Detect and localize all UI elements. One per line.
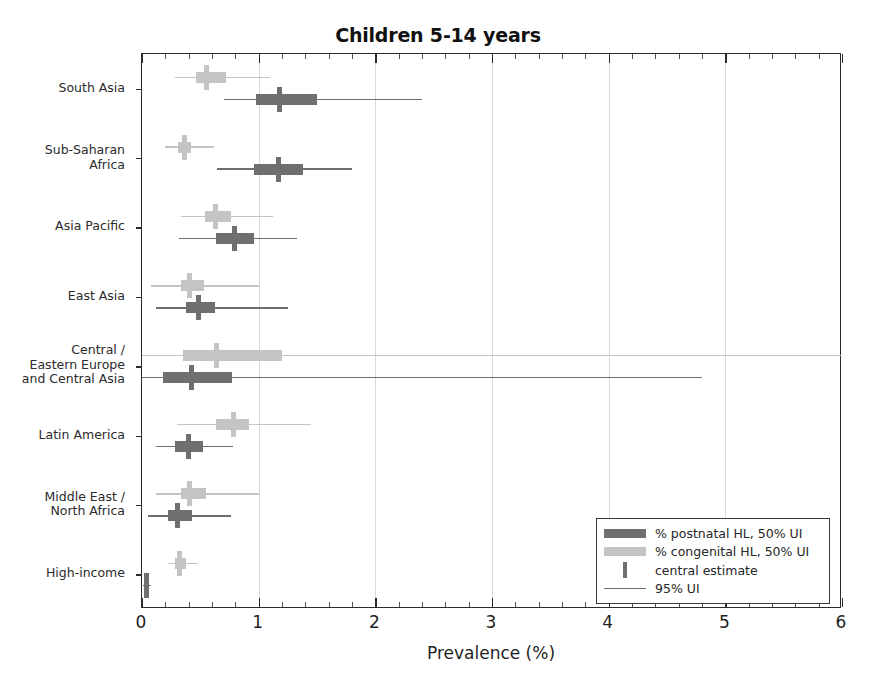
y-axis-label: High-income [46, 566, 125, 581]
x-tick-top-major [375, 54, 376, 63]
y-tick [136, 227, 142, 228]
x-tick-minor [305, 602, 306, 607]
legend-line-icon [604, 588, 646, 589]
y-axis-label: South Asia [59, 80, 126, 95]
ui50-box [256, 94, 317, 105]
legend-item: central estimate [604, 561, 822, 580]
y-tick [136, 436, 142, 437]
x-tick-minor [469, 602, 470, 607]
ui50-box [196, 72, 226, 83]
x-tick-top-major [609, 54, 610, 63]
ui95-line [224, 99, 422, 100]
x-tick-top-minor [422, 54, 423, 59]
legend-swatch-icon [604, 561, 646, 579]
x-tick-top-minor [702, 54, 703, 59]
x-tick-top-minor [632, 54, 633, 59]
y-tick [136, 297, 142, 298]
y-axis-label: Asia Pacific [55, 219, 125, 234]
legend-label: % congenital HL, 50% UI [655, 544, 809, 559]
x-tick-top-minor [795, 54, 796, 59]
central-estimate-tick [204, 65, 209, 90]
central-estimate-tick [175, 503, 180, 528]
x-tick-label: 5 [719, 612, 730, 632]
x-tick-minor [515, 602, 516, 607]
x-tick-label: 1 [252, 612, 263, 632]
x-tick-minor [399, 602, 400, 607]
x-tick-top-minor [212, 54, 213, 59]
ui50-box [186, 302, 215, 313]
x-tick-label: 2 [369, 612, 380, 632]
central-estimate-tick [182, 135, 187, 160]
x-tick-top-major [259, 54, 260, 63]
legend-bar-icon [604, 529, 646, 538]
x-tick-top-minor [562, 54, 563, 59]
chart-title: Children 5-14 years [0, 24, 876, 46]
chart-figure: Children 5-14 years South AsiaSub-Sahara… [0, 0, 876, 691]
y-axis-label: East Asia [68, 289, 125, 304]
chart-legend: % postnatal HL, 50% UI% congenital HL, 5… [596, 518, 830, 604]
gridline [259, 54, 260, 607]
x-tick-major [842, 598, 843, 607]
central-estimate-tick [277, 87, 282, 112]
x-tick-top-minor [329, 54, 330, 59]
gridline [375, 54, 376, 607]
x-tick-major [492, 598, 493, 607]
x-tick-top-major [725, 54, 726, 63]
x-tick-top-minor [399, 54, 400, 59]
x-tick-major [259, 598, 260, 607]
x-tick-top-minor [165, 54, 166, 59]
legend-item: % congenital HL, 50% UI [604, 543, 822, 562]
x-tick-top-minor [655, 54, 656, 59]
y-axis-label: Central / Eastern Europe and Central Asi… [22, 343, 125, 387]
ui50-box [183, 350, 282, 361]
y-axis-label: Latin America [39, 427, 125, 442]
legend-label: % postnatal HL, 50% UI [655, 526, 802, 541]
legend-tick-icon [623, 562, 627, 578]
legend-item: % postnatal HL, 50% UI [604, 524, 822, 543]
central-estimate-tick [276, 157, 281, 182]
central-estimate-tick [232, 226, 237, 251]
ui95-line [156, 307, 288, 308]
ui50-box [181, 488, 207, 499]
x-tick-major [142, 598, 143, 607]
x-tick-minor [445, 602, 446, 607]
x-tick-top-minor [305, 54, 306, 59]
x-axis-title: Prevalence (%) [141, 643, 841, 663]
ui95-line [156, 493, 259, 494]
ui95-line [151, 285, 258, 286]
x-tick-top-minor [539, 54, 540, 59]
y-axis-label: Middle East / North Africa [45, 489, 125, 518]
x-tick-top-major [142, 54, 143, 63]
x-tick-top-minor [352, 54, 353, 59]
x-tick-label: 4 [602, 612, 613, 632]
x-tick-minor [562, 602, 563, 607]
legend-swatch-icon [604, 543, 646, 561]
x-tick-top-minor [819, 54, 820, 59]
x-tick-top-minor [282, 54, 283, 59]
legend-item: 95% UI [604, 580, 822, 599]
central-estimate-tick [187, 273, 192, 298]
x-tick-top-major [842, 54, 843, 63]
x-tick-top-major [492, 54, 493, 63]
central-estimate-tick [196, 295, 201, 320]
x-tick-top-minor [469, 54, 470, 59]
legend-swatch-icon [604, 524, 646, 542]
y-tick [136, 158, 142, 159]
x-tick-top-minor [772, 54, 773, 59]
central-estimate-tick [231, 412, 236, 437]
x-tick-top-minor [749, 54, 750, 59]
central-estimate-tick [144, 573, 149, 598]
x-tick-label: 3 [486, 612, 497, 632]
legend-swatch-icon [604, 580, 646, 598]
x-tick-minor [539, 602, 540, 607]
x-tick-minor [352, 602, 353, 607]
gridline [492, 54, 493, 607]
x-tick-minor [282, 602, 283, 607]
y-tick [136, 89, 142, 90]
x-tick-minor [329, 602, 330, 607]
x-tick-minor [189, 602, 190, 607]
y-axis-label: Sub-Saharan Africa [45, 143, 125, 172]
x-tick-top-minor [679, 54, 680, 59]
x-tick-minor [422, 602, 423, 607]
x-tick-minor [235, 602, 236, 607]
